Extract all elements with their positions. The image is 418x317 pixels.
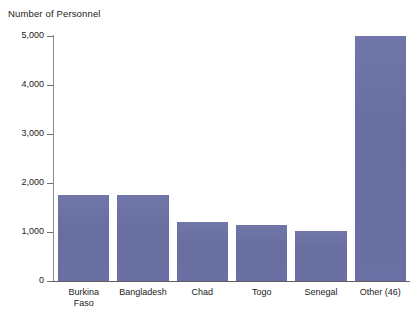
y-axis-tick [47, 36, 53, 37]
y-axis-tick-label: 5,000 [0, 30, 44, 40]
bar-fill [355, 36, 406, 281]
bar [295, 231, 346, 281]
bar [117, 195, 168, 281]
x-axis-category-label: Chad [173, 287, 232, 298]
y-axis-tick [47, 232, 53, 233]
chart-title: Number of Personnel [8, 8, 101, 19]
bar [355, 36, 406, 281]
x-axis-line [53, 281, 410, 282]
bar-fill [236, 225, 287, 281]
y-axis-tick-label: 4,000 [0, 79, 44, 89]
bar [58, 195, 109, 281]
bar-fill [117, 195, 168, 281]
bar [177, 222, 228, 281]
bar [236, 225, 287, 281]
bar-fill [177, 222, 228, 281]
y-axis-tick-label: 0 [0, 275, 44, 285]
bar-chart: Number of Personnel 01,0002,0003,0004,00… [0, 0, 418, 317]
x-axis-category-label: Other (46) [351, 287, 410, 298]
bar-fill [58, 195, 109, 281]
y-axis-tick [47, 183, 53, 184]
x-axis-category-label: Bangladesh [113, 287, 172, 298]
y-axis-tick-label: 3,000 [0, 128, 44, 138]
x-axis-category-label: Burkina Faso [54, 287, 113, 309]
y-axis-tick [47, 281, 53, 282]
bar-fill [295, 231, 346, 281]
y-axis-tick [47, 85, 53, 86]
y-axis-tick [47, 134, 53, 135]
y-axis-tick-label: 2,000 [0, 177, 44, 187]
y-axis-tick-label: 1,000 [0, 226, 44, 236]
x-axis-category-label: Senegal [291, 287, 350, 298]
y-axis-line [53, 35, 54, 282]
x-axis-category-label: Togo [232, 287, 291, 298]
